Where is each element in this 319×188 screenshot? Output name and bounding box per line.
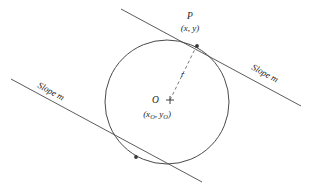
diagram-canvas: P (x, y) r O (xO, yO) Slope m Slope m [0,0,319,188]
label-point-p: P [186,11,193,21]
circle [105,40,229,164]
geometry-diagram: P (x, y) r O (xO, yO) Slope m Slope m [0,0,319,188]
label-center-o: O [152,95,159,105]
tangent-point-upper [195,44,199,48]
tangent-point-lower [134,155,138,159]
label-radius: r [181,69,185,79]
label-slope-left: Slope m [36,80,66,103]
tangent-line-upper [121,9,301,106]
center-coords-middle: , y [155,109,164,119]
center-marker-icon [166,96,174,104]
center-coords-close: ) [167,109,171,119]
center-coords-open: (x [143,109,150,119]
tangent-line-lower [11,79,202,182]
label-center-coords: (xO, yO) [143,109,171,120]
label-point-p-coords: (x, y) [181,23,199,33]
